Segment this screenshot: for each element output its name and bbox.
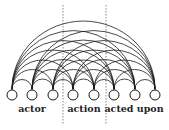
- node-circle: [48, 90, 58, 100]
- arc: [32, 79, 53, 89]
- node-circle: [109, 90, 119, 100]
- node-circle: [130, 90, 140, 100]
- group-label-actor: actor: [18, 103, 47, 114]
- node-circle: [27, 90, 37, 100]
- nodes: [7, 89, 160, 100]
- arcs: [12, 21, 155, 89]
- arc: [32, 40, 135, 89]
- arc: [12, 80, 32, 89]
- arc: [53, 41, 155, 89]
- node-circle: [89, 90, 99, 100]
- node-circle: [150, 90, 160, 100]
- arc: [135, 80, 155, 89]
- arc: [73, 79, 94, 89]
- arc: [114, 79, 135, 89]
- group-label-acted-upon: acted upon: [104, 103, 163, 114]
- node-circle: [68, 90, 78, 100]
- node-circle: [7, 90, 17, 100]
- group-label-action: action: [67, 103, 100, 114]
- arc: [94, 80, 114, 89]
- arc-diagram: actor action acted upon: [0, 0, 169, 130]
